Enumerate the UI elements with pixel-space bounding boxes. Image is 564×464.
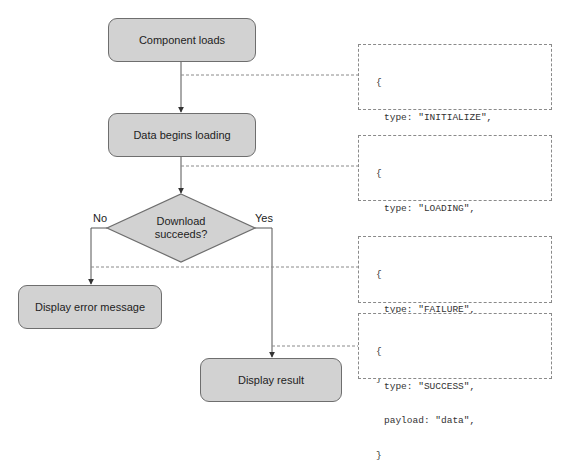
node-data-begins-loading: Data begins loading — [108, 113, 256, 157]
code-type-line: type: "LOADING", — [376, 203, 551, 215]
code-type-line: type: "SUCCESS", — [376, 381, 551, 393]
code-open-brace: { — [376, 346, 551, 358]
decision-label-line2: succeeds? — [131, 228, 231, 241]
action-box-initialize: { type: "INITIALIZE", } — [358, 44, 552, 110]
action-box-success: { type: "SUCCESS", payload: "data", } — [358, 313, 552, 379]
code-close-brace: } — [376, 450, 551, 462]
code-open-brace: { — [376, 77, 551, 89]
arrow-yes-branch — [255, 228, 272, 357]
arrow-no-branch — [91, 228, 107, 284]
code-type-line: type: "INITIALIZE", — [376, 112, 551, 124]
action-box-failure: { type: "FAILURE", payload: "404", } — [358, 236, 552, 303]
node-component-loads: Component loads — [108, 18, 256, 62]
node-label: Display error message — [35, 301, 145, 313]
code-open-brace: { — [376, 168, 551, 180]
branch-label-yes: Yes — [255, 212, 273, 224]
node-label: Component loads — [139, 34, 225, 46]
decision-label: Download succeeds? — [131, 215, 231, 241]
action-box-loading: { type: "LOADING", } — [358, 135, 552, 201]
decision-label-line1: Download — [131, 215, 231, 228]
node-display-error-message: Display error message — [18, 285, 162, 329]
node-label: Display result — [238, 374, 304, 386]
code-payload-line: payload: "data", — [376, 415, 551, 427]
node-display-result: Display result — [200, 358, 342, 402]
branch-label-no: No — [93, 212, 107, 224]
node-label: Data begins loading — [133, 129, 230, 141]
code-open-brace: { — [376, 269, 551, 281]
